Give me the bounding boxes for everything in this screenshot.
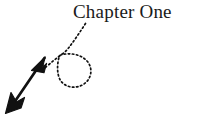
dotted-loop (58, 54, 91, 87)
pointer-annotation-graphic (0, 0, 201, 119)
mid-arrowhead-icon (32, 57, 47, 73)
dotted-lead-curve (60, 24, 85, 56)
figure-root: Chapter One (0, 0, 201, 119)
tip-arrowhead-icon (6, 93, 25, 114)
